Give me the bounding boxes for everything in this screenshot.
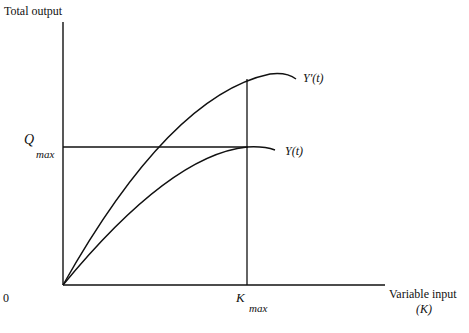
y-axis-label: Total output — [4, 4, 62, 19]
q-max-symbol: Q — [24, 132, 34, 148]
x-axis-label: Variable input — [389, 287, 457, 302]
k-max-subscript: max — [249, 302, 267, 314]
k-max-symbol: K — [236, 290, 245, 306]
lower-curve-label: Y(t) — [285, 144, 303, 159]
production-diagram — [0, 0, 469, 333]
upper-curve-label: Y'(t) — [303, 71, 324, 86]
origin-label: 0 — [3, 291, 9, 306]
upper-curve — [63, 74, 296, 285]
x-axis-symbol: (K) — [416, 302, 432, 317]
q-max-subscript: max — [36, 148, 54, 160]
lower-curve — [63, 147, 275, 285]
